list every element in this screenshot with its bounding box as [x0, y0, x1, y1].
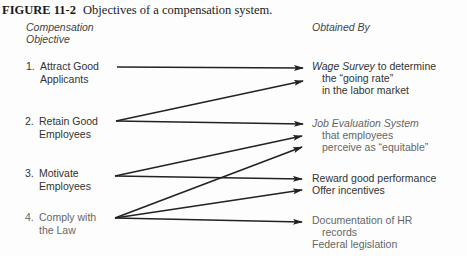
arrow-3-to-job-eval	[115, 136, 302, 176]
arrow-1-to-wage-survey	[117, 67, 303, 68]
arrow-3-to-reward	[115, 176, 302, 179]
arrow-4-to-incentives	[115, 190, 302, 218]
arrow-2-to-job-eval	[116, 121, 303, 124]
arrow-2-to-wage-survey	[116, 81, 303, 121]
connection-arrows	[0, 0, 467, 256]
arrow-4-to-job-eval	[115, 147, 302, 218]
arrow-4-to-documentation	[115, 218, 302, 222]
